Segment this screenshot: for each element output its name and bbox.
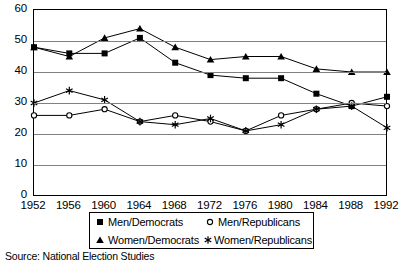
gridline xyxy=(34,72,386,73)
series-line xyxy=(34,29,387,72)
x-tick-label: 1960 xyxy=(87,200,121,212)
x-tick-label: 1972 xyxy=(193,200,227,212)
square-marker-icon xyxy=(278,75,284,81)
legend-row: Women/Democrats Women/Republicans xyxy=(90,231,313,249)
legend-label: Men/Democrats xyxy=(108,217,183,228)
circle-marker-icon xyxy=(384,104,389,109)
triangle-marker-icon xyxy=(92,234,108,246)
legend-row: Men/Democrats Men/Republicans xyxy=(90,213,313,231)
x-tick-label: 1984 xyxy=(298,200,332,212)
legend-item-women-democrats: Women/Democrats xyxy=(90,234,202,246)
circle-marker-icon xyxy=(102,107,107,112)
triangle-marker-icon xyxy=(171,44,179,51)
triangle-marker-icon xyxy=(96,236,104,243)
series-women-democrats xyxy=(30,25,391,75)
y-tick-label: 60 xyxy=(1,3,27,15)
legend-item-men-democrats: Men/Democrats xyxy=(90,216,202,228)
gridline xyxy=(34,103,386,104)
star-marker-icon xyxy=(384,124,391,132)
x-tick-label: 1968 xyxy=(157,200,191,212)
triangle-marker-icon xyxy=(313,65,321,72)
series-line xyxy=(34,91,387,131)
legend-item-women-republicans: Women/Republicans xyxy=(202,234,312,246)
square-marker-icon xyxy=(243,75,249,81)
legend-label: Women/Democrats xyxy=(108,235,199,246)
y-tick-label: 20 xyxy=(1,127,27,139)
x-tick-label: 1952 xyxy=(16,200,50,212)
x-tick-label: 1976 xyxy=(228,200,262,212)
square-marker-icon xyxy=(384,94,390,100)
x-tick-label: 1992 xyxy=(369,200,403,212)
x-tick-label: 1956 xyxy=(51,200,85,212)
source-note: Source: National Election Studies xyxy=(5,251,154,261)
y-tick-label: 30 xyxy=(1,96,27,108)
x-tick-label: 1980 xyxy=(263,200,297,212)
circle-marker-icon xyxy=(67,113,72,118)
square-marker-icon xyxy=(102,50,108,56)
series-women-republicans xyxy=(31,87,391,135)
circle-marker-icon xyxy=(202,216,218,228)
square-marker-icon xyxy=(137,35,143,41)
square-marker-icon xyxy=(97,219,103,225)
y-tick-label: 10 xyxy=(1,158,27,170)
x-tick-label: 1988 xyxy=(334,200,368,212)
x-tick-label: 1964 xyxy=(122,200,156,212)
legend-label: Men/Republicans xyxy=(218,217,300,228)
circle-marker-icon xyxy=(207,219,212,224)
plot-area xyxy=(33,9,387,196)
square-marker-icon xyxy=(313,91,319,97)
square-marker-icon xyxy=(92,216,108,228)
y-tick-label: 40 xyxy=(1,65,27,77)
chart-figure: 6050403020100 19521956196019641968197219… xyxy=(0,0,404,261)
circle-marker-icon xyxy=(173,113,178,118)
triangle-marker-icon xyxy=(136,25,144,32)
star-marker-icon xyxy=(66,87,73,95)
circle-marker-icon xyxy=(31,113,36,118)
gridline xyxy=(34,165,386,166)
gridline xyxy=(34,134,386,135)
y-tick-label: 50 xyxy=(1,34,27,46)
star-marker-icon xyxy=(202,234,214,246)
legend-item-men-republicans: Men/Republicans xyxy=(202,216,312,228)
chart-legend: Men/Democrats Men/Republicans Women/Demo… xyxy=(89,212,314,249)
legend-label: Women/Republicans xyxy=(214,235,312,246)
star-marker-icon xyxy=(205,236,212,244)
gridline xyxy=(34,41,386,42)
square-marker-icon xyxy=(172,60,178,66)
square-marker-icon xyxy=(208,72,214,78)
circle-marker-icon xyxy=(279,113,284,118)
